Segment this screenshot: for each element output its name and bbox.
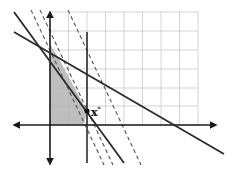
optimal-point-label: x* xyxy=(91,105,101,119)
objective-contours xyxy=(31,10,141,165)
dashed-line-1 xyxy=(31,10,104,165)
optimal-point xyxy=(84,108,89,113)
lp-diagram: x* xyxy=(0,0,247,172)
constraint-line-steep xyxy=(14,12,124,163)
dashed-line-3 xyxy=(68,10,141,165)
